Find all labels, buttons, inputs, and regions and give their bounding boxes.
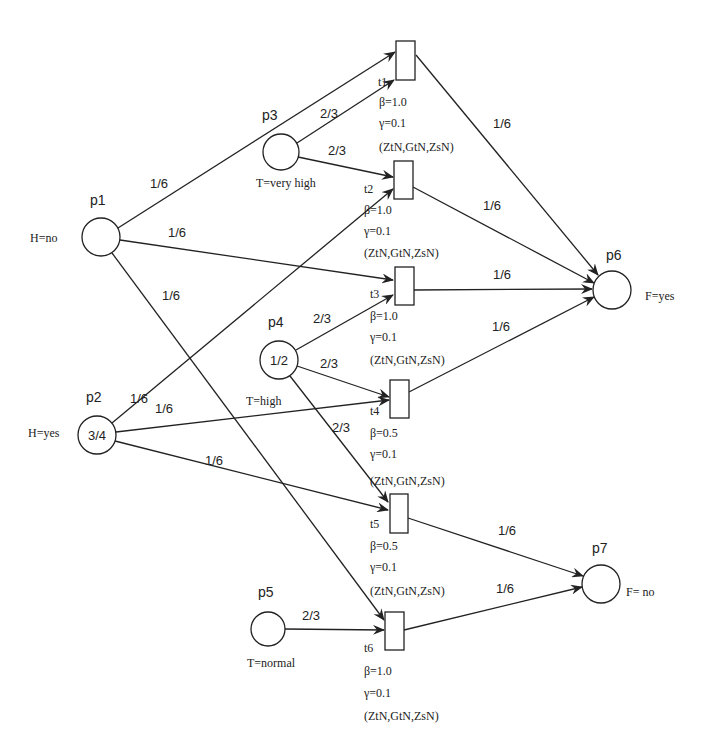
transition-beta: β=1.0 [364, 664, 392, 678]
place-annotation: T=very high [256, 176, 316, 190]
transition-beta: β=1.0 [370, 309, 398, 323]
arc-weight-label: 1/6 [493, 267, 511, 282]
place-p2: p2H=yes3/4 [28, 389, 116, 454]
place-label: p4 [268, 314, 284, 330]
arc-p1-t3: 1/6 [120, 225, 393, 280]
place-annotation: H=no [30, 231, 57, 245]
arc-p3-t1: 2/3 [297, 80, 394, 143]
transition-gamma: γ=0.1 [369, 330, 397, 344]
arc-arrow [297, 366, 389, 397]
arc-p1-t6: 1/6 [112, 253, 384, 620]
transition-params: (ZtN,GtN,ZsN) [370, 353, 445, 367]
place-annotation: T=normal [247, 656, 296, 670]
arc-p2-t2: 1/6 [112, 189, 393, 423]
transition-beta: β=1.0 [379, 95, 407, 109]
transition-bar [394, 161, 413, 199]
place-annotation: H=yes [28, 426, 60, 440]
transition-params: (ZtN,GtN,ZsN) [379, 140, 454, 154]
arc-weight-label: 1/6 [205, 453, 223, 468]
place-label: p6 [606, 247, 622, 263]
place-circle [593, 271, 631, 309]
place-p1: p1H=no [30, 192, 120, 256]
transition-gamma: γ=0.1 [369, 447, 397, 461]
transition-bar [390, 380, 409, 418]
arc-weight-label: 1/6 [496, 581, 514, 596]
arc-weight-label: 1/6 [162, 288, 180, 303]
arc-arrow [297, 80, 394, 143]
transition-bar [385, 612, 404, 650]
transition-t2: t2β=1.0γ=0.1(ZtN,GtN,ZsN) [363, 161, 439, 260]
transition-gamma: γ=0.1 [378, 116, 406, 130]
arc-weight-label: 1/6 [483, 198, 501, 213]
arc-weight-label: 2/3 [320, 356, 338, 371]
arc-arrow [120, 240, 393, 280]
place-p5: p5T=normal [247, 584, 296, 670]
arc-arrow [285, 629, 384, 630]
place-label: p1 [90, 192, 106, 208]
arc-weight-label: 1/6 [493, 116, 511, 131]
arcs-layer: 1/62/32/31/61/62/32/31/62/31/61/62/31/61… [112, 52, 598, 630]
arc-t5-p7: 1/6 [408, 518, 583, 576]
transition-label: t3 [370, 287, 379, 301]
arc-weight-label: 1/6 [498, 523, 516, 538]
arc-weight-label: 2/3 [313, 311, 331, 326]
transition-label: t4 [370, 404, 379, 418]
place-p4: p4T=high1/2 [246, 314, 298, 408]
arc-weight-label: 1/6 [155, 401, 173, 416]
places-layer: p1H=nop2H=yes3/4p3T=very highp4T=high1/2… [28, 107, 675, 670]
transition-beta: β=0.5 [370, 426, 398, 440]
place-annotation: F=yes [645, 289, 675, 303]
arc-weight-label: 1/6 [168, 225, 186, 240]
transition-label: t2 [364, 182, 373, 196]
arc-arrow [414, 289, 592, 290]
arc-weight-label: 2/3 [328, 143, 346, 158]
place-circle [251, 612, 285, 646]
place-p7: p7F= no [582, 540, 654, 603]
arc-t1-p6: 1/6 [416, 55, 598, 275]
arc-arrow [112, 189, 393, 423]
place-circle [82, 218, 120, 256]
place-marking: 3/4 [88, 428, 106, 443]
arc-arrow [408, 518, 583, 576]
arc-p5-t6: 2/3 [285, 608, 384, 630]
arc-arrow [416, 55, 598, 275]
arc-weight-label: 1/6 [492, 319, 510, 334]
arc-weight-label: 1/6 [130, 391, 148, 406]
transition-t5: t5β=0.5γ=0.1(ZtN,GtN,ZsN) [369, 494, 445, 598]
transition-gamma: γ=0.1 [369, 560, 397, 574]
transition-params: (ZtN,GtN,ZsN) [370, 474, 445, 488]
transition-params: (ZtN,GtN,ZsN) [364, 709, 439, 723]
transition-gamma: γ=0.1 [363, 224, 391, 238]
place-label: p7 [592, 540, 608, 556]
arc-weight-label: 2/3 [332, 420, 350, 435]
transition-t4: t4β=0.5γ=0.1(ZtN,GtN,ZsN) [369, 380, 445, 488]
arc-weight-label: 2/3 [302, 608, 320, 623]
place-label: p3 [262, 107, 278, 123]
arc-weight-label: 2/3 [320, 106, 338, 121]
transition-bar [395, 267, 414, 305]
transition-params: (ZtN,GtN,ZsN) [364, 246, 439, 260]
transition-label: t5 [370, 517, 379, 531]
place-p3: p3T=very high [256, 107, 316, 190]
place-annotation: F= no [626, 585, 654, 599]
arc-arrow [298, 157, 393, 177]
transition-bar [390, 494, 408, 533]
transition-beta: β=0.5 [370, 539, 398, 553]
petri-net-diagram: 1/62/32/31/61/62/32/31/62/31/61/62/31/61… [0, 0, 708, 756]
place-label: p5 [258, 584, 274, 600]
place-marking: 1/2 [270, 353, 288, 368]
transition-beta: β=1.0 [364, 203, 392, 217]
arc-arrow [115, 441, 388, 510]
place-annotation: T=high [246, 394, 281, 408]
arc-p1-t1: 1/6 [118, 52, 395, 228]
arc-arrow [409, 297, 594, 392]
place-label: p2 [86, 389, 102, 405]
transition-t3: t3β=1.0γ=0.1(ZtN,GtN,ZsN) [369, 267, 445, 367]
place-circle [263, 134, 299, 170]
transition-t1: t1β=1.0γ=0.1(ZtN,GtN,ZsN) [378, 41, 454, 154]
transition-params: (ZtN,GtN,ZsN) [370, 584, 445, 598]
transition-label: t1 [378, 75, 387, 89]
arc-arrow [118, 52, 395, 228]
transition-label: t6 [364, 641, 373, 655]
arc-t4-p6: 1/6 [409, 297, 594, 392]
